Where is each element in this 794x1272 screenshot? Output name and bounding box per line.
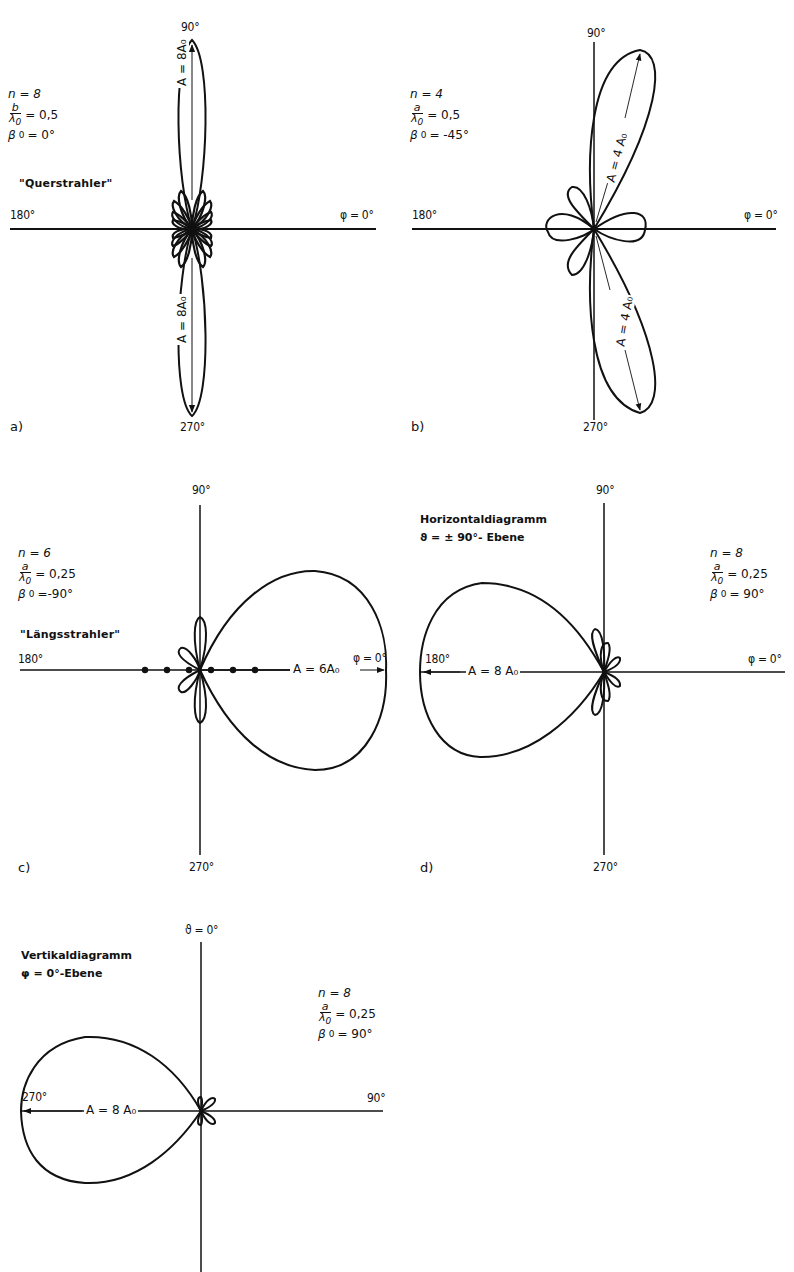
panel-e-label-90: 90° [367, 1091, 385, 1105]
panel-b-label-270: 270° [583, 420, 608, 434]
param-ratio: a λ0 [710, 562, 724, 586]
panel-c-label-270: 270° [189, 860, 214, 874]
panel-a-label-180: 180° [10, 208, 35, 222]
panel-e-params: n = 8 a λ0 = 0,25 β0= 90° [318, 985, 376, 1043]
panel-d-label-0: φ = 0° [748, 652, 782, 666]
panel-a-label-270: 270° [180, 420, 205, 434]
panel-a-amplitude-down: A = 8A₀ [175, 294, 189, 345]
panel-b-label-90: 90° [587, 26, 605, 40]
param-ratio: a λ0 [318, 1002, 332, 1026]
panel-d-label-180: 180° [425, 652, 450, 666]
panel-e-heading-2: φ = 0°-Ebene [21, 966, 102, 982]
panel-d-heading-1: Horizontaldiagramm [420, 512, 547, 528]
panel-d-amplitude: A = 8 A₀ [466, 664, 520, 678]
panel-a-label-0: φ = 0° [340, 208, 374, 222]
panel-b-letter: b) [411, 419, 424, 434]
panel-c-letter: c) [18, 860, 30, 875]
panel-a [10, 40, 376, 416]
panel-b-label-0: φ = 0° [744, 208, 778, 222]
panel-a-amplitude-up: A = 8A₀ [175, 37, 189, 88]
panel-a-label-90: 90° [181, 20, 199, 34]
param-ratio: a λ0 [410, 103, 424, 127]
param-ratio: b λ0 [8, 103, 22, 127]
panel-d-letter: d) [420, 860, 433, 875]
panel-a-caption: "Querstrahler" [19, 177, 112, 190]
panel-c-caption: "Längsstrahler" [20, 628, 120, 641]
panel-d-params: n = 8 a λ0 = 0,25 β0= 90° [710, 545, 768, 603]
param-ratio: a λ0 [18, 562, 32, 586]
panel-d-label-90: 90° [596, 483, 614, 497]
panel-c-label-90: 90° [192, 483, 210, 497]
panel-d-label-270: 270° [593, 860, 618, 874]
panel-e-heading-1: Vertikaldiagramm [21, 948, 132, 964]
panel-e-amplitude: A = 8 A₀ [84, 1103, 138, 1117]
panel-e-label-270: 270° [22, 1090, 47, 1104]
panel-c-amplitude: A = 6A₀ [291, 662, 342, 676]
panel-d-heading-2: ϑ = ± 90°- Ebene [420, 530, 525, 546]
panel-c-label-0: φ = 0° [353, 651, 387, 665]
panel-b-params: n = 4 a λ0 = 0,5 β0= -45° [410, 86, 469, 144]
panel-e-label-top: ϑ = 0° [185, 923, 218, 937]
panel-a-params: n = 8 b λ0 = 0,5 β0= 0° [8, 86, 58, 144]
panel-b-label-180: 180° [412, 208, 437, 222]
panel-c-params: n = 6 a λ0 = 0,25 β0=-90° [18, 545, 76, 603]
panel-c-label-180: 180° [18, 652, 43, 666]
panel-a-letter: a) [10, 419, 23, 434]
